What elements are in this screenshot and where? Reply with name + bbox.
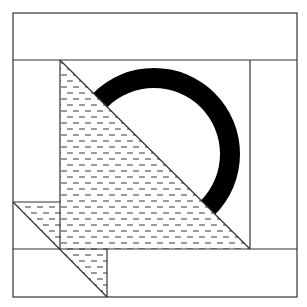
quilt-block-diagram xyxy=(0,0,307,307)
